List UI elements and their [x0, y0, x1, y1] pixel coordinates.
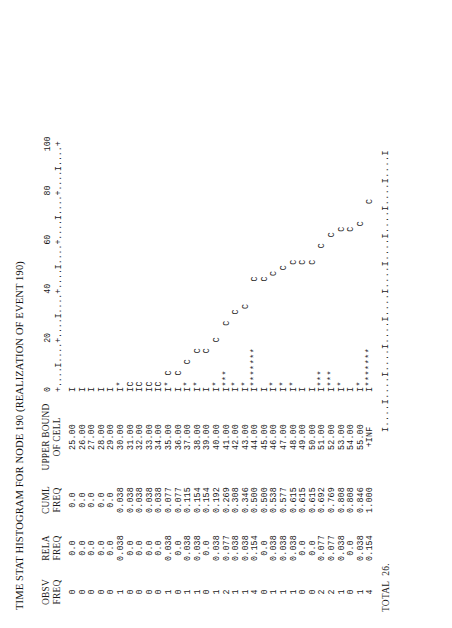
cell-rela-freq: 0.038: [269, 524, 279, 572]
cell-upper-bound: 39.00: [202, 398, 212, 476]
axis-ruler-bottom: I....I....I....I....I....I....I....I....…: [381, 150, 391, 432]
cell-histogram-plot: I* C: [193, 10, 203, 398]
printout-page-frame: TIME STAT HISTOGRAM FOR NODE 190 (REALIZ…: [0, 0, 452, 628]
cell-upper-bound: 26.00: [78, 398, 88, 476]
cell-histogram-plot: I* C: [183, 10, 193, 398]
cell-upper-bound: 40.00: [212, 398, 222, 476]
cell-upper-bound: 54.00: [346, 398, 356, 476]
cell-histogram-plot: I* C: [241, 10, 251, 398]
cell-cuml-freq: 0.0: [78, 476, 88, 524]
cell-histogram-plot: I: [78, 10, 88, 398]
header-cuml-freq-line1: CUML: [41, 476, 52, 524]
cell-rela-freq: 0.0: [126, 524, 136, 572]
cell-obsv-freq: 0: [126, 572, 136, 612]
cell-rela-freq: 0.0: [87, 524, 97, 572]
cell-obsv-freq: 0: [202, 572, 212, 612]
table-row: 00.00.03834.00IC: [154, 10, 164, 612]
table-row: 10.0380.03830.00I*: [116, 10, 126, 612]
cell-cuml-freq: 0.615: [308, 476, 318, 524]
cell-rela-freq: 0.077: [327, 524, 337, 572]
cell-obsv-freq: 2: [222, 572, 232, 612]
table-row: 00.00.80854.00I C: [346, 10, 356, 612]
cell-histogram-plot: I* C: [279, 10, 289, 398]
total-observations-label: TOTAL 26.: [381, 516, 391, 612]
cell-rela-freq: 0.038: [337, 524, 347, 572]
cell-upper-bound: 34.00: [154, 398, 164, 476]
cell-cuml-freq: 1.000: [365, 476, 375, 524]
cell-rela-freq: 0.038: [231, 524, 241, 572]
cell-obsv-freq: 1: [183, 572, 193, 612]
cell-upper-bound: 45.00: [260, 398, 270, 476]
cell-upper-bound: 49.00: [298, 398, 308, 476]
cell-obsv-freq: 1: [116, 572, 126, 612]
cell-histogram-plot: I*** C: [327, 10, 337, 398]
table-row: 00.00.025.00I: [68, 10, 78, 612]
cell-cuml-freq: 0.038: [154, 476, 164, 524]
cell-cuml-freq: 0.615: [298, 476, 308, 524]
table-row: 10.0380.30842.00I* C: [231, 10, 241, 612]
table-footer: TOTAL 26. I....I....I....I....I....I....…: [381, 10, 391, 612]
cell-rela-freq: 0.038: [289, 524, 299, 572]
cell-obsv-freq: 1: [356, 572, 366, 612]
cell-rela-freq: 0.077: [222, 524, 232, 572]
cell-obsv-freq: 0: [154, 572, 164, 612]
table-header-row-1: OBSV RELA CUML UPPER BOUND 0 20 40 60 80…: [41, 10, 52, 612]
cell-cuml-freq: 0.115: [183, 476, 193, 524]
cell-upper-bound: 27.00: [87, 398, 97, 476]
cell-obsv-freq: 1: [164, 572, 174, 612]
cell-rela-freq: 0.0: [78, 524, 88, 572]
cell-obsv-freq: 0: [87, 572, 97, 612]
page-title: TIME STAT HISTOGRAM FOR NODE 190 (REALIZ…: [14, 10, 25, 610]
cell-upper-bound: 30.00: [116, 398, 126, 476]
cell-histogram-plot: I C: [174, 10, 184, 398]
cell-histogram-plot: I C: [260, 10, 270, 398]
cell-cuml-freq: 0.038: [116, 476, 126, 524]
cell-histogram-plot: I* C: [337, 10, 347, 398]
cell-cuml-freq: 0.154: [193, 476, 203, 524]
cell-cuml-freq: 0.808: [337, 476, 347, 524]
cell-upper-bound: 41.00: [222, 398, 232, 476]
table-row: 10.0380.84655.00I* C: [356, 10, 366, 612]
cell-rela-freq: 0.0: [154, 524, 164, 572]
cell-upper-bound: 36.00: [174, 398, 184, 476]
cell-obsv-freq: 1: [279, 572, 289, 612]
cell-upper-bound: 35.00: [164, 398, 174, 476]
table-row: 10.0380.34643.00I* C: [241, 10, 251, 612]
table-row: 00.00.61550.00I C: [308, 10, 318, 612]
cell-histogram-plot: I******* C: [365, 10, 375, 398]
cell-upper-bound: 55.00: [356, 398, 366, 476]
cell-cuml-freq: 0.538: [269, 476, 279, 524]
cell-rela-freq: 0.038: [212, 524, 222, 572]
cell-cuml-freq: 0.615: [289, 476, 299, 524]
cell-cuml-freq: 0.038: [145, 476, 155, 524]
cell-histogram-plot: I* C: [164, 10, 174, 398]
cell-cuml-freq: 0.0: [68, 476, 78, 524]
cell-upper-bound: 29.00: [106, 398, 116, 476]
cell-histogram-plot: I* C: [289, 10, 299, 398]
cell-histogram-plot: I******* C: [250, 10, 260, 398]
cell-histogram-plot: I C: [298, 10, 308, 398]
cell-rela-freq: 0.077: [317, 524, 327, 572]
table-row: 10.0380.80853.00I* C: [337, 10, 347, 612]
cell-histogram-plot: IC: [135, 10, 145, 398]
cell-obsv-freq: 4: [250, 572, 260, 612]
cell-obsv-freq: 0: [135, 572, 145, 612]
cell-cuml-freq: 0.308: [231, 476, 241, 524]
table-row: 10.0380.57747.00I* C: [279, 10, 289, 612]
cell-obsv-freq: 4: [365, 572, 375, 612]
table-row: 40.1541.000+INFI******* C: [365, 10, 375, 612]
table-row: 20.0770.69251.00I*** C: [317, 10, 327, 612]
cell-obsv-freq: 1: [241, 572, 251, 612]
cell-cuml-freq: 0.154: [202, 476, 212, 524]
table-row: 10.0380.07735.00I* C: [164, 10, 174, 612]
cell-rela-freq: 0.038: [183, 524, 193, 572]
cell-histogram-plot: IC: [126, 10, 136, 398]
cell-obsv-freq: 1: [337, 572, 347, 612]
cell-histogram-plot: I*** C: [222, 10, 232, 398]
cell-obsv-freq: 1: [269, 572, 279, 612]
cell-rela-freq: 0.038: [193, 524, 203, 572]
table-body: 00.00.025.00I00.00.026.00I00.00.027.00I0…: [68, 10, 375, 612]
header-rela-freq-line1: RELA: [41, 524, 52, 572]
table-row: 10.0380.19240.00I* C: [212, 10, 222, 612]
header-obsv-freq-line1: OBSV: [41, 572, 52, 612]
